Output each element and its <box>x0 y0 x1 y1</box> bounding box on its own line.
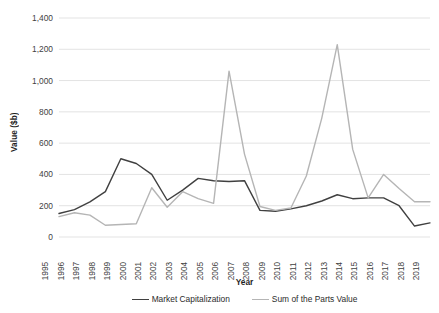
line-chart: Value ($b) 02004006008001,0001,2001,400 … <box>0 0 439 313</box>
y-axis-tick-label: 400 <box>20 169 53 179</box>
legend-label: Market Capitalization <box>152 294 230 304</box>
x-axis-title: Year <box>59 277 430 287</box>
y-axis-tick-label: 1,000 <box>20 76 53 86</box>
chart-legend: Market CapitalizationSum of the Parts Va… <box>59 292 430 306</box>
y-axis-tick-label: 1,400 <box>20 13 53 23</box>
y-axis-tick-label: 200 <box>20 201 53 211</box>
legend-entry[interactable]: Market Capitalization <box>132 294 230 304</box>
legend-line-swatch <box>132 299 149 300</box>
x-axis-tick-label: 1995 <box>41 262 49 280</box>
y-axis-tick-label: 600 <box>20 138 53 148</box>
legend-entry[interactable]: Sum of the Parts Value <box>252 294 358 304</box>
y-axis-tick-label: 1,200 <box>20 44 53 54</box>
legend-line-swatch <box>252 299 269 300</box>
legend-label: Sum of the Parts Value <box>272 294 358 304</box>
plot-area <box>59 18 430 237</box>
gridlines <box>59 18 430 237</box>
x-axis-tick-labels: 1995199619971998199920002001200220032004… <box>59 239 430 275</box>
y-axis-tick-label: 800 <box>20 107 53 117</box>
y-axis-tick-label: 0 <box>20 232 53 242</box>
series-lines <box>59 45 430 226</box>
plot-svg <box>59 18 430 237</box>
series-line <box>59 159 430 226</box>
